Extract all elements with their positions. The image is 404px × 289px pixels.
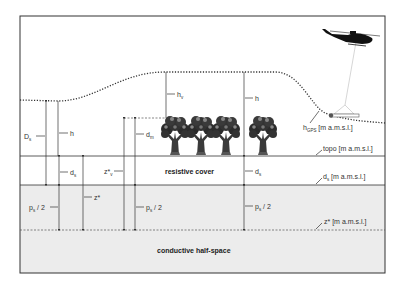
label-h-right: h [255,95,259,102]
label-zstar: z* [94,194,101,201]
label-zstar-msl: z* [m a.m.s.l.] [324,218,366,226]
label-Ds: Ds [24,133,32,142]
label-zstar-v: z*v [104,168,113,177]
label-ds-right: ds [255,168,262,177]
tree-icon [161,116,189,155]
label-topo: topo [m a.m.s.l.] [323,145,373,153]
label-conductive-half-space: conductive half-space [157,247,231,255]
em-bird-sensor-icon [329,113,359,117]
helicopter-icon [322,29,380,46]
label-hgps: hGPS [m a.m.s.l.] [303,124,353,133]
label-dm: dm [146,131,154,140]
label-ds-left: ds [70,169,77,178]
tree-icon [212,116,240,155]
survey-geometry-diagram: Ds h ds ps / 2 z* z*v dm ps / 2 hv h ds … [0,0,404,289]
tree-icon [249,116,277,155]
label-h-left: h [70,130,74,137]
label-hv: hv [177,91,184,100]
tree-icon [187,116,215,155]
conductive-region-fill [20,185,385,273]
label-resistive-cover: resistive cover [165,168,214,175]
label-ds-msl: ds [m a.m.s.l.] [323,173,365,182]
